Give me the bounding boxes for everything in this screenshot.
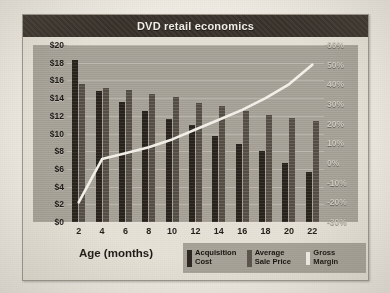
y-left-tick: $12 xyxy=(50,112,64,121)
x-axis-tick: 16 xyxy=(232,226,252,236)
x-axis-tick: 20 xyxy=(279,226,299,236)
legend-label: AverageSale Price xyxy=(255,249,291,266)
x-axis-ticks: 246810121416182022 xyxy=(67,223,324,239)
y-left-tick: $14 xyxy=(50,94,64,103)
y-left-tick: $8 xyxy=(55,147,64,156)
bar-swatch-dark-icon xyxy=(187,250,192,267)
x-axis-label: Age (months) xyxy=(41,247,191,259)
y-right-tick: 30% xyxy=(327,100,344,109)
y-right-tick: -10% xyxy=(327,178,347,187)
y-left-tick: $4 xyxy=(55,182,64,191)
legend-label: AcquisitionCost xyxy=(195,249,236,266)
line-swatch-white-icon xyxy=(306,252,310,265)
page-title: DVD retail economics xyxy=(137,20,254,32)
chart-title-bar: DVD retail economics xyxy=(23,15,368,37)
chart-figure: DVD retail economics $20$18$16$14$12$10$… xyxy=(22,14,369,281)
y-right-tick: 0% xyxy=(327,159,339,168)
x-axis-tick: 8 xyxy=(139,226,159,236)
y-left-tick: $18 xyxy=(50,58,64,67)
y-left-tick: $2 xyxy=(55,200,64,209)
y-left-tick: $20 xyxy=(50,41,64,50)
x-axis-tick: 6 xyxy=(115,226,135,236)
y-right-tick: -30% xyxy=(327,218,347,227)
x-axis-tick: 12 xyxy=(185,226,205,236)
gross-margin-line xyxy=(67,45,324,222)
bar-swatch-gray-icon xyxy=(247,250,252,267)
y-axis-left: $20$18$16$14$12$10$8$6$4$2$0 xyxy=(33,45,67,222)
y-right-tick: 20% xyxy=(327,119,344,128)
legend-item: AcquisitionCost xyxy=(187,249,243,266)
line-series-layer xyxy=(67,45,324,222)
legend-label-line2: Sale Price xyxy=(255,258,291,267)
legend-label-line2: Margin xyxy=(313,258,338,267)
chart-legend: AcquisitionCostAverageSale PriceGrossMar… xyxy=(183,243,366,273)
legend-item: GrossMargin xyxy=(306,249,362,266)
y-right-tick: 50% xyxy=(327,60,344,69)
y-right-tick: 60% xyxy=(327,41,344,50)
y-right-tick: 40% xyxy=(327,80,344,89)
y-left-tick: $10 xyxy=(50,129,64,138)
legend-item: AverageSale Price xyxy=(247,249,303,266)
y-left-tick: $6 xyxy=(55,165,64,174)
gridline xyxy=(67,222,324,223)
x-axis: 246810121416182022 xyxy=(33,223,358,239)
legend-label-line2: Cost xyxy=(195,258,236,267)
y-left-tick: $16 xyxy=(50,76,64,85)
x-axis-tick: 22 xyxy=(302,226,322,236)
x-axis-tick: 18 xyxy=(256,226,276,236)
x-axis-tick: 2 xyxy=(69,226,89,236)
plot-area: $20$18$16$14$12$10$8$6$4$2$0 60%50%40%30… xyxy=(33,45,358,222)
legend-label: GrossMargin xyxy=(313,249,338,266)
y-axis-right: 60%50%40%30%20%10%0%-10%-20%-30% xyxy=(324,45,358,222)
y-left-tick: $0 xyxy=(55,218,64,227)
y-right-tick: 10% xyxy=(327,139,344,148)
x-axis-tick: 10 xyxy=(162,226,182,236)
y-right-tick: -20% xyxy=(327,198,347,207)
x-axis-tick: 14 xyxy=(209,226,229,236)
x-axis-tick: 4 xyxy=(92,226,112,236)
